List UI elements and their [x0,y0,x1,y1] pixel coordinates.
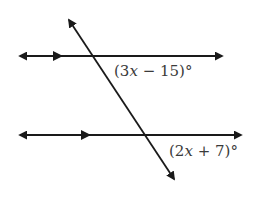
angle-label-coefficient: 2 [175,142,185,160]
angle-label-constant: 15 [160,62,179,80]
geometry-diagram [0,0,256,198]
angle-label-constant: 7 [215,142,225,160]
angle-label-top: (3x − 15)° [114,64,192,79]
parallel-marker-icon [81,130,91,140]
angle-label-variable: x [184,142,192,160]
angle-label-operator: − [138,62,160,80]
degree-symbol: ° [230,142,238,160]
angle-label-bottom: (2x + 7)° [169,144,238,159]
angle-label-operator: + [193,142,215,160]
angle-label-coefficient: 3 [120,62,130,80]
degree-symbol: ° [185,62,193,80]
parallel-marker-icon [53,51,63,61]
angle-label-variable: x [129,62,137,80]
bottom-parallel-line [20,130,241,140]
transversal-line [69,20,174,179]
top-parallel-line [20,51,222,61]
